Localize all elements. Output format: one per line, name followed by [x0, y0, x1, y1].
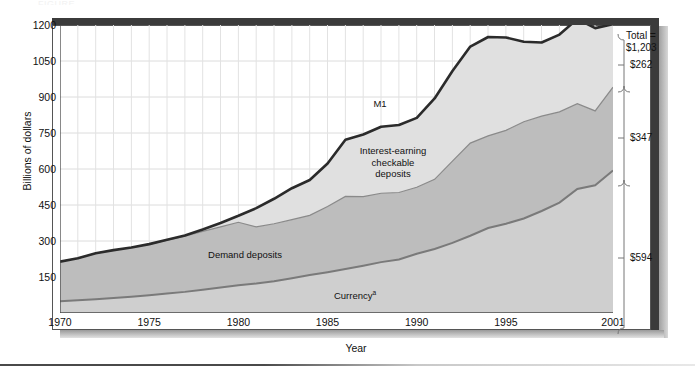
- y-tick-1200: 1200: [12, 20, 56, 31]
- x-tick-1975: 1975: [126, 317, 172, 328]
- x-tick-1985: 1985: [305, 317, 351, 328]
- x-axis-ticks: 1970 1975 1980 1985 1990 1995 2001: [60, 317, 613, 331]
- x-tick-1990: 1990: [394, 317, 440, 328]
- x-tick-1980: 1980: [215, 317, 261, 328]
- plot-area: [60, 25, 613, 313]
- currency-footnote-marker: a: [372, 289, 376, 296]
- page-bottom-rule: [0, 364, 695, 366]
- y-tick-300: 300: [12, 236, 56, 247]
- series-label-demand-deposits: Demand deposits: [185, 249, 305, 261]
- series-label-interest-earning: Interest-earning checkable deposits: [345, 145, 441, 180]
- y-axis-title: Billions of dollars: [21, 96, 33, 206]
- breakdown-total-label: Total = $1,203: [626, 30, 688, 53]
- x-tick-1995: 1995: [483, 317, 529, 328]
- series-label-currency: Currencya: [320, 287, 390, 302]
- currency-text: Currency: [334, 290, 373, 301]
- breakdown-panel: Total = $1,203 $262 $347 $594: [616, 18, 694, 335]
- y-tick-600: 600: [12, 164, 56, 175]
- frame-shadow-bottom: [60, 330, 664, 338]
- breakdown-amount-interest-earning: $262: [630, 59, 684, 70]
- cropped-caption-remnant: FIGURE: [38, 0, 98, 5]
- y-axis-ticks: 1200 1050 900 750 600 450 300 150 Billio…: [8, 25, 56, 313]
- y-tick-900: 900: [12, 92, 56, 103]
- y-tick-150: 150: [12, 272, 56, 283]
- series-label-m1: M1: [360, 98, 400, 110]
- y-tick-1050: 1050: [12, 56, 56, 67]
- y-tick-750: 750: [12, 128, 56, 139]
- x-axis-title: Year: [316, 342, 396, 354]
- y-tick-450: 450: [12, 200, 56, 211]
- breakdown-amount-currency: $594: [630, 252, 684, 263]
- x-tick-1970: 1970: [37, 317, 83, 328]
- breakdown-amount-demand-deposits: $347: [630, 132, 684, 143]
